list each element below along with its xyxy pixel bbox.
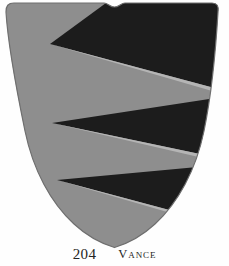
plate-number: 204: [73, 247, 97, 262]
shield-field: [0, 0, 229, 250]
heraldry-plate: 204 Vance: [0, 0, 229, 266]
shield-illustration: [0, 0, 229, 250]
shield-figure: [0, 0, 229, 250]
plate-name: Vance: [118, 248, 156, 261]
caption: 204 Vance: [0, 243, 229, 266]
